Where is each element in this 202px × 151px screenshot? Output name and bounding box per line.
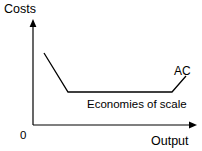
diagram-canvas bbox=[0, 0, 202, 151]
x-axis-arrow-icon bbox=[189, 122, 197, 129]
origin-label: 0 bbox=[20, 130, 26, 142]
average-cost-curve bbox=[44, 53, 186, 92]
curve-label-ac: AC bbox=[174, 65, 191, 77]
x-axis-label: Output bbox=[151, 135, 189, 148]
y-axis-label: Costs bbox=[4, 3, 36, 16]
average-cost-curve-diagram: Costs Output 0 AC Economies of scale bbox=[0, 0, 202, 151]
economies-of-scale-label: Economies of scale bbox=[87, 99, 187, 111]
y-axis-arrow-icon bbox=[30, 19, 37, 27]
